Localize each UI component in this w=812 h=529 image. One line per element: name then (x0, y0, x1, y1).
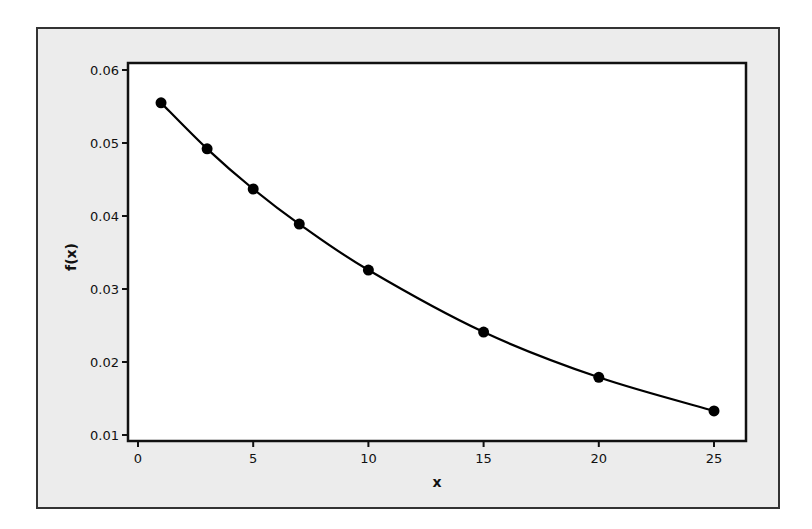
y-tick-label: 0.04 (90, 209, 119, 224)
data-point-marker (709, 405, 720, 416)
y-tick-label: 0.01 (90, 428, 119, 443)
y-tick-label: 0.06 (90, 63, 119, 78)
data-point-marker (363, 265, 374, 276)
x-tick-label: 25 (706, 451, 723, 466)
chart: 0.010.020.030.040.050.06 0510152025 x f(… (0, 0, 812, 529)
data-point-marker (202, 143, 213, 154)
y-tick-label: 0.05 (90, 136, 119, 151)
x-tick-label: 20 (591, 451, 608, 466)
x-tick-label: 10 (360, 451, 377, 466)
x-tick-label: 15 (475, 451, 492, 466)
plot-area (128, 63, 746, 441)
x-axis-title: x (432, 474, 441, 490)
y-tick-label: 0.03 (90, 282, 119, 297)
data-point-marker (248, 183, 259, 194)
y-axis-title: f(x) (63, 243, 79, 271)
x-tick-label: 5 (249, 451, 257, 466)
data-point-marker (294, 219, 305, 230)
data-point-marker (156, 97, 167, 108)
y-tick-label: 0.02 (90, 355, 119, 370)
data-point-marker (478, 327, 489, 338)
data-point-marker (593, 372, 604, 383)
x-tick-label: 0 (134, 451, 142, 466)
